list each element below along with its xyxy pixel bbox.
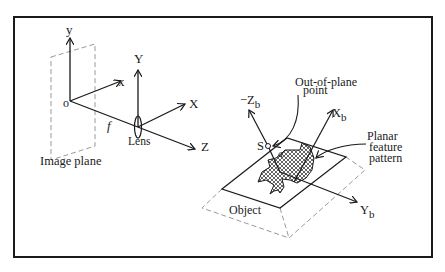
out-of-plane-point [266, 144, 271, 149]
diagram-canvas: y x o Y X Z f Lens Image plane Out-of-pl… [0, 0, 445, 272]
point-s-label: S [257, 139, 264, 153]
object-label: Object [229, 203, 262, 217]
y-b-label: Yb [360, 203, 375, 220]
angle-a-label: a [278, 148, 283, 159]
lens-label: Lens [128, 135, 151, 147]
image-x-label: x [118, 74, 125, 89]
neg-z-sub: b [255, 98, 261, 110]
lens-x-axis [138, 104, 185, 127]
origin-label: o [63, 96, 69, 110]
image-plane-label: Image plane [40, 154, 102, 168]
y-b-sub: b [369, 208, 375, 220]
planar-label-3: pattern [369, 151, 402, 165]
y-b-main: Y [360, 203, 369, 217]
image-y-label: y [66, 22, 73, 37]
x-b-main: X [332, 106, 341, 120]
out-of-plane-leader [273, 95, 298, 146]
neg-z-main: −Z [240, 93, 255, 107]
lens-y-label: Y [134, 51, 144, 66]
x-b-sub: b [341, 111, 347, 123]
z-axis-label: Z [201, 139, 209, 154]
focal-length-label: f [107, 118, 113, 133]
lens-x-label: X [189, 96, 199, 111]
out-of-plane-label-2: point [303, 83, 328, 97]
neg-z-b-label: −Zb [240, 93, 261, 110]
x-b-label: Xb [332, 106, 347, 123]
